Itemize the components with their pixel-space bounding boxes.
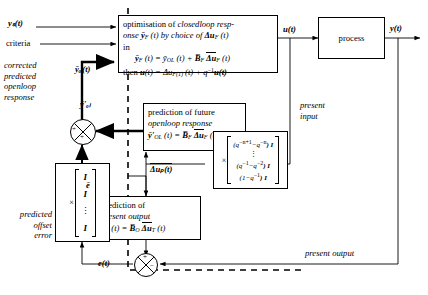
prediction-future-line-1: prediction of future <box>148 107 241 118</box>
future-increments-label: Δuₚ(t) <box>150 164 172 174</box>
control-input-label: u(t) <box>283 24 296 34</box>
q-matrix-block[interactable]: × (q−n+1−q−n) I ⋮ (q−1−q−2) I (1−q−1) I <box>213 131 288 189</box>
q-matrix-row-dots: ⋮ <box>233 150 273 159</box>
prediction-present-output-block[interactable]: prediction of present output yO (t) = B̅… <box>96 196 201 240</box>
corrected-openloop-signal-label: ȳₒₗ(t) <box>75 64 90 74</box>
present-input-label: present input <box>300 100 325 121</box>
plant-output-label: y(t) <box>390 23 402 33</box>
summing-junction-openloop[interactable]: + + <box>70 119 96 145</box>
present-output-label: present output <box>305 248 354 258</box>
q-matrix-row-3: (q−1−q−2) I <box>233 159 273 171</box>
sum-error-sign-right: − <box>150 262 154 270</box>
identity-stack-times-icon: × <box>69 198 74 207</box>
prediction-present-line-2: present output <box>101 211 196 222</box>
corrected-predicted-openloop-response-label: corrected predicted openloop response <box>4 60 74 102</box>
optimisation-equation-2: then u(t) = ΔuF(1) (t) + q−1u(t) <box>123 65 273 80</box>
identity-row-4: I <box>81 224 90 233</box>
predicted-offset-error-label: predicted offset error <box>0 209 52 241</box>
optimisation-line-3: in <box>123 42 273 53</box>
q-matrix-bracket: (q−n+1−q−n) I ⋮ (q−1−q−2) I (1−q−1) I <box>227 136 279 184</box>
optimisation-line-2: onse ȳF (t) by choice of ΔuF (t) <box>123 30 273 43</box>
q-matrix-row-1: (q−n+1−q−n) I <box>233 138 273 150</box>
identity-row-dots: ⋮ <box>81 207 90 216</box>
predicted-openloop-signal-label: ȳ'ₒₗ <box>80 99 90 109</box>
q-matrix-times-icon: × <box>222 156 227 165</box>
offset-error-signal-label: ē <box>86 180 90 190</box>
criteria-label: criteria <box>6 38 30 48</box>
identity-stack-bracket: I I ⋮ I <box>75 169 96 237</box>
optimisation-line-1: optimisation of closedloop resp- <box>123 19 273 30</box>
optimisation-block[interactable]: optimisation of closedloop resp- onse ȳF… <box>118 15 278 73</box>
summing-junction-error[interactable]: + − <box>134 253 158 277</box>
sum-openloop-sign-left: + <box>72 125 76 133</box>
optimisation-equation-1: ȳF (t) = ȳOL (t) + B̅FΔuF (t) <box>123 53 273 66</box>
process-block[interactable]: process <box>318 17 385 59</box>
prediction-present-equation: yO (t) = B̅OΔuT (t) <box>101 223 196 236</box>
identity-stack-block[interactable]: × I I ⋮ I <box>55 163 110 242</box>
sum-error-sign-top: + <box>143 253 147 261</box>
setpoint-label: yₛ(t) <box>8 18 23 28</box>
q-matrix-row-4: (1−q−1) I <box>233 171 273 183</box>
prediction-present-line-1: prediction of <box>101 200 196 211</box>
process-label: process <box>339 33 365 44</box>
predictive-control-diagram: optimisation of closedloop resp- onse ȳF… <box>0 0 428 295</box>
prediction-future-line-2: openloop response <box>148 118 241 129</box>
identity-row-2: I <box>81 190 90 199</box>
sum-openloop-sign-bottom: + <box>80 133 84 141</box>
error-signal-label: e(t) <box>98 258 110 268</box>
